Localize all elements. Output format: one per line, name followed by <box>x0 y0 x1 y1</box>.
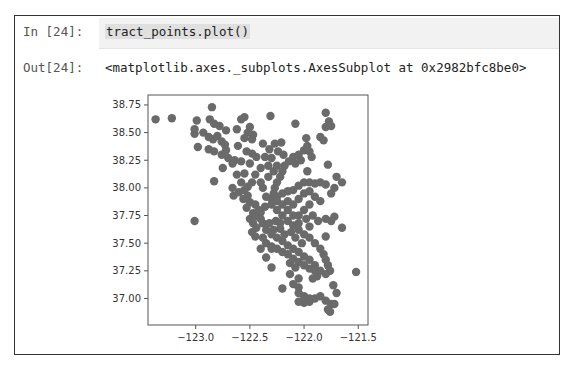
x-axis: −123.0−122.5−122.0−121.5 <box>177 325 377 343</box>
data-point <box>319 136 327 144</box>
x-tick-label: −122.0 <box>286 332 323 343</box>
x-tick-label: −122.5 <box>231 332 268 343</box>
data-point <box>257 245 265 253</box>
data-point <box>309 274 317 282</box>
data-point <box>219 164 227 172</box>
data-point <box>322 232 330 240</box>
data-point <box>210 147 218 155</box>
data-point <box>262 253 270 261</box>
y-tick-label: 37.50 <box>112 238 141 249</box>
data-point <box>280 230 288 238</box>
data-point <box>291 233 299 241</box>
data-point <box>329 281 337 289</box>
data-point <box>210 177 218 185</box>
data-point <box>352 268 360 276</box>
data-point <box>233 125 241 133</box>
data-point <box>234 142 242 150</box>
scatter-plot: −123.0−122.5−122.0−121.5 38.7538.5038.25… <box>0 0 572 370</box>
data-point <box>289 211 297 219</box>
data-point <box>239 195 247 203</box>
data-point <box>168 114 176 122</box>
data-point <box>264 162 272 170</box>
data-point <box>233 170 241 178</box>
data-point <box>291 263 299 271</box>
y-tick-label: 38.25 <box>112 155 141 166</box>
data-point <box>240 134 248 142</box>
data-point <box>240 113 248 121</box>
data-point <box>222 126 230 134</box>
data-point <box>248 135 256 143</box>
data-point <box>190 217 198 225</box>
data-point <box>332 289 340 297</box>
data-point <box>240 169 248 177</box>
data-point <box>237 157 245 165</box>
x-tick-label: −123.0 <box>177 332 214 343</box>
data-point <box>190 130 198 138</box>
data-point <box>222 146 230 154</box>
data-point <box>330 300 338 308</box>
data-point <box>257 178 265 186</box>
data-point <box>322 108 330 116</box>
data-point <box>267 245 275 253</box>
x-tick-label: −121.5 <box>340 332 377 343</box>
data-point <box>246 159 254 167</box>
data-point <box>208 103 216 111</box>
data-point <box>298 239 306 247</box>
data-point <box>251 232 259 240</box>
points-layer <box>151 103 360 316</box>
data-point <box>251 170 259 178</box>
data-point <box>279 151 287 159</box>
data-point <box>338 178 346 186</box>
y-tick-label: 38.50 <box>112 127 141 138</box>
data-point <box>257 164 265 172</box>
data-point <box>151 115 159 123</box>
data-point <box>252 153 260 161</box>
y-tick-label: 37.25 <box>112 265 141 276</box>
data-point <box>242 204 250 212</box>
y-tick-label: 38.00 <box>112 182 141 193</box>
data-point <box>273 197 281 205</box>
data-point <box>262 193 270 201</box>
data-point <box>305 222 313 230</box>
data-point <box>273 162 281 170</box>
data-point <box>193 116 201 124</box>
data-point <box>338 223 346 231</box>
data-point <box>327 189 335 197</box>
y-tick-label: 37.75 <box>112 210 141 221</box>
y-axis: 38.7538.5038.2538.0037.7537.5037.2537.00 <box>112 99 148 304</box>
y-tick-label: 37.00 <box>112 293 141 304</box>
data-point <box>266 112 274 120</box>
data-point <box>259 139 267 147</box>
data-point <box>324 160 332 168</box>
data-point <box>330 212 338 220</box>
data-point <box>326 308 334 316</box>
data-point <box>327 122 335 130</box>
data-point <box>286 270 294 278</box>
data-point <box>261 153 269 161</box>
data-point <box>276 219 284 227</box>
data-point <box>291 159 299 167</box>
data-point <box>314 217 322 225</box>
data-point <box>307 153 315 161</box>
data-point <box>291 120 299 128</box>
data-point <box>303 167 311 175</box>
data-point <box>316 197 324 205</box>
data-point <box>278 284 286 292</box>
data-point <box>277 138 285 146</box>
data-point <box>194 143 202 151</box>
data-point <box>294 219 302 227</box>
y-tick-label: 38.75 <box>112 99 141 110</box>
data-point <box>244 183 252 191</box>
data-point <box>267 263 275 271</box>
data-point <box>302 134 310 142</box>
